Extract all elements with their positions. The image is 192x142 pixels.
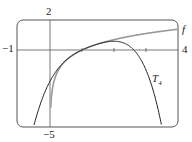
y-min-label: −5 (43, 129, 55, 140)
legend-f: f (182, 24, 185, 35)
x-max-label: 4 (182, 44, 188, 55)
y-max-label: 2 (46, 6, 52, 17)
x-min-label: −1 (2, 43, 14, 54)
legend-t4: T4 (152, 73, 162, 87)
chart-canvas (0, 0, 192, 142)
